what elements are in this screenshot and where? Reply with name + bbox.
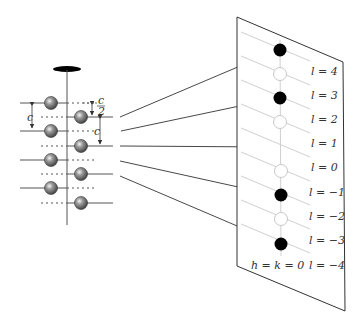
- spot-open-lm3: [275, 213, 288, 226]
- atom: [45, 97, 58, 110]
- label-l0: l = 0: [311, 161, 338, 174]
- label-l4: l = 4: [311, 65, 338, 78]
- atom: [75, 168, 88, 181]
- label-c-right: c: [94, 125, 100, 138]
- label-l2: l = 2: [311, 113, 338, 126]
- spot-filled-l2: [274, 92, 287, 105]
- label-lm2: l = −2: [309, 210, 345, 223]
- zone-label: h = k = 0: [251, 259, 304, 272]
- spot-open-lm1: [275, 165, 288, 178]
- diffraction-diagram: c c 2 c: [0, 0, 362, 327]
- atom: [75, 140, 88, 153]
- spot-filled-lm4: [275, 238, 288, 251]
- label-l3: l = 3: [311, 89, 338, 102]
- spot-open-l3: [274, 68, 287, 81]
- atom: [75, 111, 88, 124]
- label-lm3: l = −3: [309, 234, 345, 247]
- spot-filled-lm2: [275, 189, 288, 202]
- spot-filled-l4: [274, 44, 287, 57]
- dimension-c-left: c: [27, 106, 33, 128]
- crystal-structure: c c 2 c: [20, 66, 113, 225]
- label-lm4: l = −4: [309, 259, 345, 272]
- atom: [45, 154, 58, 167]
- label-lm1: l = −1: [309, 186, 345, 199]
- label-half-c-den: 2: [97, 105, 105, 118]
- label-l1: l = 1: [311, 137, 338, 150]
- atom: [45, 182, 58, 195]
- atom: [45, 125, 58, 138]
- atoms-right-column: [75, 111, 88, 210]
- atom: [75, 197, 88, 210]
- label-c-left: c: [27, 111, 33, 124]
- dimension-c-right: c: [94, 119, 100, 144]
- detector-screen: l = 4 l = 3 l = 2 l = 1 l = 0 l = −1 l =…: [237, 17, 345, 311]
- spot-open-l1: [274, 116, 287, 129]
